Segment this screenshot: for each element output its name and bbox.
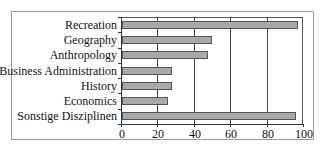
bar bbox=[122, 82, 172, 90]
y-axis bbox=[121, 17, 122, 125]
bar bbox=[122, 36, 212, 44]
x-tick-label: 60 bbox=[225, 127, 237, 142]
gridline bbox=[267, 17, 268, 124]
bar bbox=[122, 51, 208, 59]
bar bbox=[122, 67, 172, 75]
category-label: Geography bbox=[64, 33, 117, 47]
x-tick-label: 80 bbox=[262, 127, 274, 142]
category-label: History bbox=[81, 79, 117, 93]
gridline bbox=[194, 17, 195, 124]
x-axis bbox=[121, 124, 303, 125]
category-label: Sonstige Disziplinen bbox=[17, 109, 117, 123]
category-label: Economics bbox=[64, 94, 117, 108]
category-label: Anthropology bbox=[50, 48, 117, 62]
x-tick-label: 0 bbox=[119, 127, 125, 142]
gridline bbox=[230, 17, 231, 124]
bar bbox=[122, 112, 296, 120]
bar bbox=[122, 21, 298, 29]
bar bbox=[122, 97, 168, 105]
category-label: Recreation bbox=[65, 18, 117, 32]
x-tick-label: 40 bbox=[189, 127, 201, 142]
category-label: Business Administration bbox=[0, 64, 117, 78]
x-tick-label: 100 bbox=[295, 127, 313, 142]
x-tick-label: 20 bbox=[152, 127, 164, 142]
